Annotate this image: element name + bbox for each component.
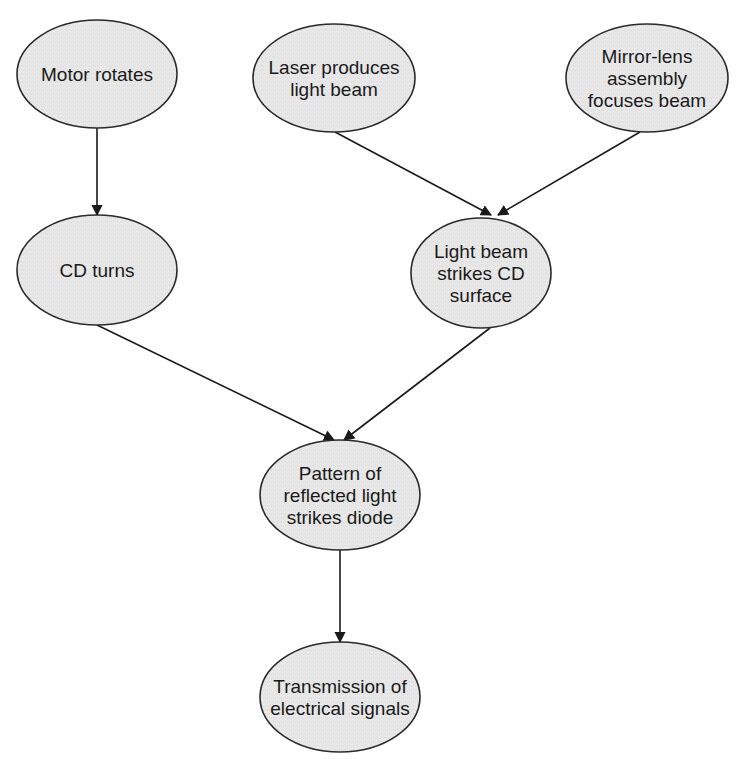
node-mirror: Mirror-lensassemblyfocuses beam (566, 24, 728, 132)
node-cdturns: CD turns (17, 215, 177, 325)
node-pattern: Pattern ofreflected lightstrikes diode (260, 440, 420, 550)
arrow-cdturns-to-pattern (97, 325, 334, 440)
arrow-mirror-to-strikes (498, 132, 640, 215)
node-label: Light beam (434, 241, 528, 262)
node-label: Motor rotates (41, 64, 153, 85)
node-label: strikes CD (437, 263, 525, 284)
node-label: Transmission of (273, 676, 407, 697)
node-label: electrical signals (270, 698, 409, 719)
node-label: Pattern of (299, 463, 382, 484)
node-ellipse (253, 24, 415, 132)
node-motor: Motor rotates (17, 20, 177, 128)
node-label: light beam (290, 79, 378, 100)
node-transmission: Transmission ofelectrical signals (260, 642, 420, 752)
edges-layer (97, 128, 640, 642)
node-laser: Laser produceslight beam (253, 24, 415, 132)
node-ellipse (260, 642, 420, 752)
node-label: focuses beam (588, 90, 706, 111)
node-label: CD turns (60, 260, 135, 281)
nodes-layer: Motor rotatesLaser produceslight beamMir… (17, 20, 728, 752)
arrow-laser-to-strikes (335, 132, 491, 215)
node-label: assembly (607, 68, 688, 89)
arrow-strikes-to-pattern (344, 328, 490, 440)
node-label: reflected light (283, 485, 397, 506)
node-label: surface (450, 285, 512, 306)
node-strikes: Light beamstrikes CDsurface (411, 218, 551, 328)
node-label: Mirror-lens (602, 46, 693, 67)
node-label: Laser produces (269, 57, 400, 78)
node-label: strikes diode (287, 507, 394, 528)
cd-player-flowchart: Motor rotatesLaser produceslight beamMir… (0, 0, 741, 759)
